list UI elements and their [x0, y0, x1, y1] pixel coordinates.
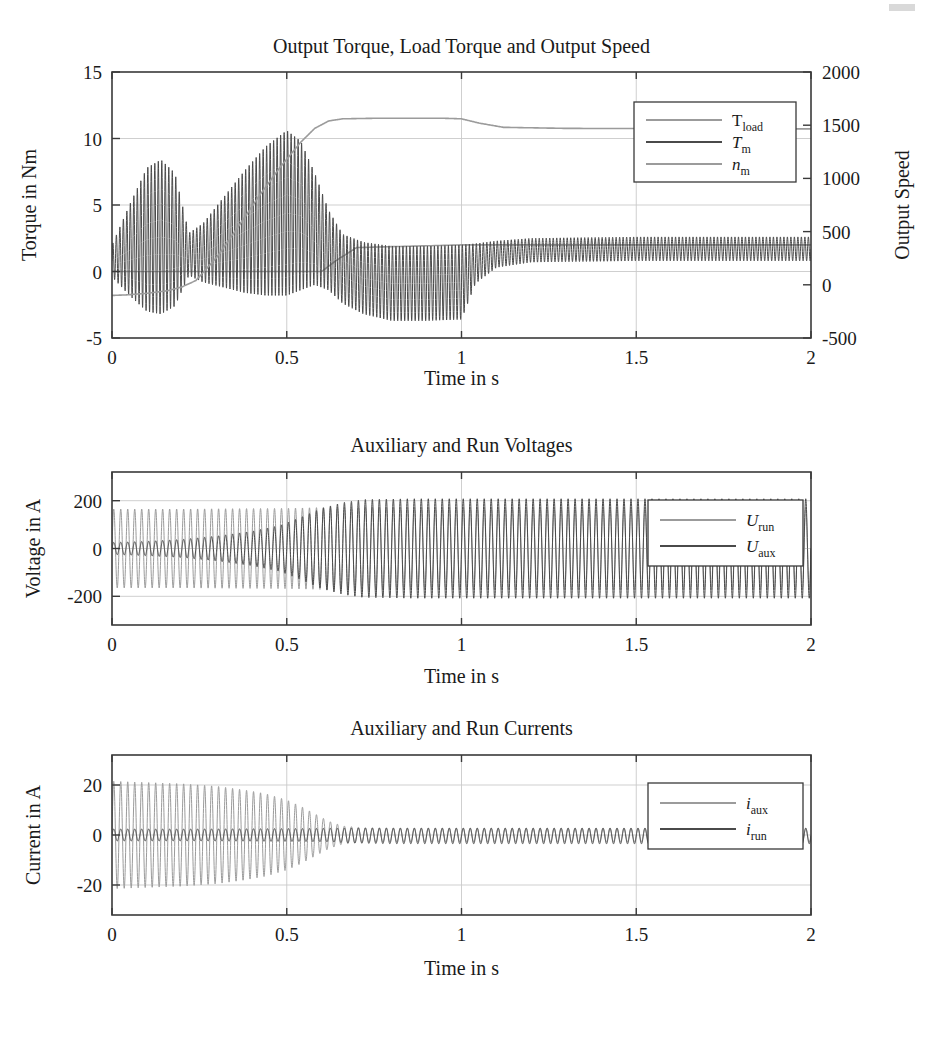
- y-tick-label-right: -500: [822, 328, 857, 349]
- x-tick-label: 0: [107, 634, 117, 655]
- y-tick-label-left: 200: [74, 491, 103, 512]
- x-tick-label: 1.5: [624, 924, 648, 945]
- legend-box: [648, 500, 803, 566]
- chart-svg-torque-speed: Output Torque, Load Torque and Output Sp…: [0, 0, 929, 400]
- y-tick-label-left: 0: [93, 262, 103, 283]
- y-tick-label-right: 500: [822, 222, 851, 243]
- x-tick-label: 1: [457, 347, 467, 368]
- y-tick-label-left: -20: [77, 875, 102, 896]
- x-tick-label: 2: [806, 634, 816, 655]
- chart-title: Auxiliary and Run Voltages: [350, 434, 572, 457]
- y-tick-label-left: -5: [86, 328, 102, 349]
- y-tick-label-left: 5: [93, 195, 103, 216]
- y-tick-label-left: 0: [93, 825, 103, 846]
- y-axis-label-right: Output Speed: [891, 150, 914, 259]
- x-tick-label: 0.5: [275, 924, 299, 945]
- y-axis-label-left: Voltage in A: [22, 498, 45, 598]
- legend-box: [648, 783, 803, 849]
- x-tick-label: 2: [806, 924, 816, 945]
- y-tick-label-left: -200: [67, 586, 102, 607]
- x-tick-label: 0.5: [275, 634, 299, 655]
- chart-panel-currents: Auxiliary and Run Currents00.511.52-2002…: [0, 700, 929, 1037]
- y-tick-label-right: 0: [822, 275, 832, 296]
- x-tick-label: 2: [806, 347, 816, 368]
- y-axis-label-left: Torque in Nm: [18, 149, 41, 261]
- chart-svg-currents: Auxiliary and Run Currents00.511.52-2002…: [0, 700, 929, 1037]
- y-tick-label-left: 20: [83, 775, 102, 796]
- y-tick-label-right: 1500: [822, 115, 860, 136]
- x-tick-label: 0: [107, 347, 117, 368]
- y-tick-label-right: 1000: [822, 168, 860, 189]
- x-tick-label: 0.5: [275, 347, 299, 368]
- x-axis-label: Time in s: [424, 957, 499, 979]
- y-tick-label-left: 15: [83, 62, 102, 83]
- x-tick-label: 1: [457, 634, 467, 655]
- chart-panel-voltages: Auxiliary and Run Voltages00.511.52-2000…: [0, 400, 929, 700]
- chart-panel-torque-speed: Output Torque, Load Torque and Output Sp…: [0, 0, 929, 400]
- chart-svg-voltages: Auxiliary and Run Voltages00.511.52-2000…: [0, 400, 929, 700]
- chart-title: Output Torque, Load Torque and Output Sp…: [273, 35, 650, 58]
- x-axis-label: Time in s: [424, 665, 499, 687]
- x-axis-label: Time in s: [424, 367, 499, 389]
- y-tick-label-left: 10: [83, 129, 102, 150]
- figure-root: Output Torque, Load Torque and Output Sp…: [0, 0, 929, 1037]
- y-tick-label-right: 2000: [822, 62, 860, 83]
- x-tick-label: 1: [457, 924, 467, 945]
- y-tick-label-left: 0: [93, 539, 103, 560]
- x-tick-label: 1.5: [624, 634, 648, 655]
- x-tick-label: 0: [107, 924, 117, 945]
- chart-title: Auxiliary and Run Currents: [350, 717, 573, 740]
- y-axis-label-left: Current in A: [22, 784, 44, 885]
- x-tick-label: 1.5: [624, 347, 648, 368]
